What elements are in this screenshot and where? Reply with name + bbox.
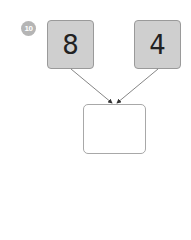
answer-box[interactable] bbox=[83, 104, 146, 154]
arrow-left-icon bbox=[71, 69, 112, 103]
arrow-right-icon bbox=[117, 69, 158, 103]
